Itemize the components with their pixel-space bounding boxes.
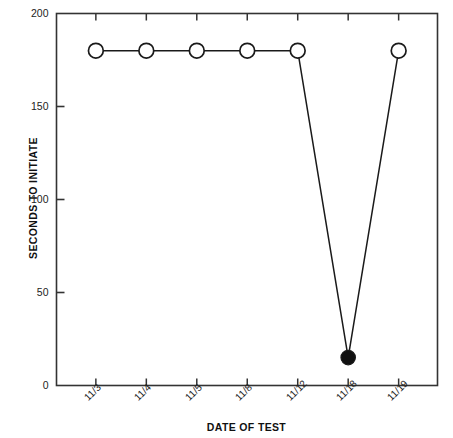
y-tick-label: 0 — [5, 379, 49, 391]
data-line — [96, 51, 399, 358]
data-point-open — [189, 43, 204, 58]
data-point-open — [139, 43, 154, 58]
data-point-open — [391, 43, 406, 58]
y-tick-label: 50 — [5, 286, 49, 298]
data-markers — [88, 43, 406, 365]
line-chart-plot — [0, 0, 453, 438]
y-tick-label: 200 — [5, 7, 49, 19]
y-tick-label: 150 — [5, 100, 49, 112]
data-point-filled — [341, 350, 355, 364]
plot-frame — [57, 14, 438, 386]
data-point-open — [88, 43, 103, 58]
y-axis-ticks — [57, 107, 65, 293]
x-axis-title: DATE OF TEST — [56, 421, 437, 433]
data-point-open — [290, 43, 305, 58]
chart-container: SECONDS TO INITIATE DATE OF TEST 0501001… — [0, 0, 453, 438]
y-tick-label: 100 — [5, 193, 49, 205]
data-point-open — [240, 43, 255, 58]
